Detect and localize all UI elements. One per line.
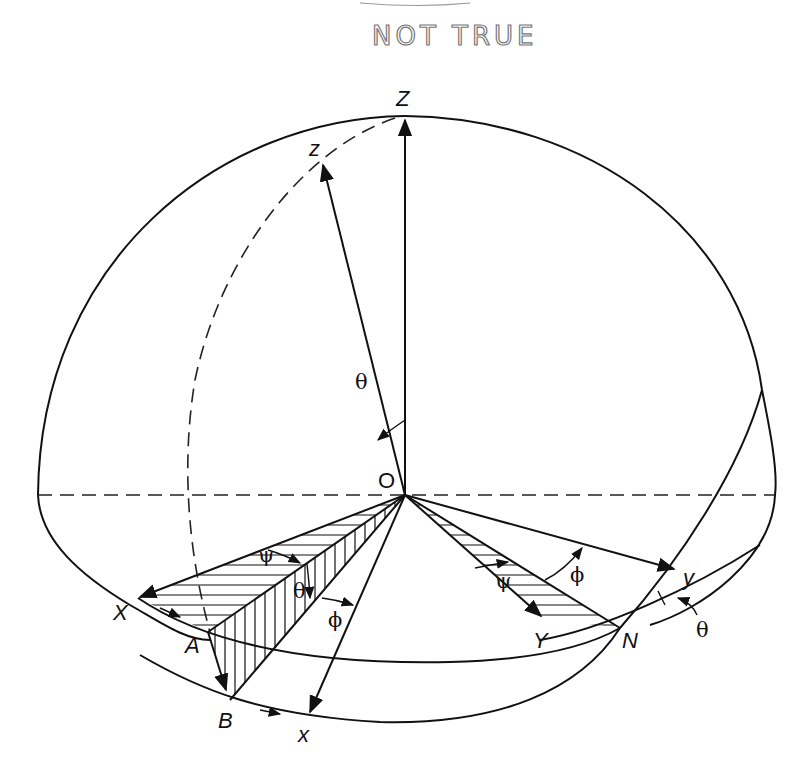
arrow-b-to-x	[260, 710, 280, 714]
label-N: N	[622, 628, 638, 653]
label-O: O	[378, 468, 395, 493]
label-Z: Z	[395, 86, 411, 111]
phi-left-arc	[322, 598, 353, 605]
line-o-n	[405, 495, 620, 628]
annotation-scribble	[360, 3, 470, 6]
theta-left-arc	[307, 564, 310, 598]
label-x: x	[297, 722, 310, 747]
label-theta-top: θ	[355, 370, 368, 394]
sphere-outline	[38, 116, 762, 495]
label-theta-left: θ	[293, 579, 306, 603]
label-B: B	[218, 708, 233, 733]
label-theta-right: θ	[696, 618, 709, 642]
label-z: z	[308, 136, 320, 161]
label-phi-left: ϕ	[328, 608, 342, 632]
label-psi-right: ψ	[495, 569, 511, 593]
annotation-text: NOT TRUE	[372, 21, 537, 51]
axis-z-arrow	[323, 165, 405, 495]
handwritten-annotation: NOT TRUE	[360, 3, 537, 51]
arrow-a-to-b	[208, 632, 226, 690]
label-y: y	[681, 565, 696, 590]
euler-angles-diagram: NOT TRUE	[0, 0, 808, 772]
tilted-great-circle	[140, 390, 762, 722]
label-Y: Y	[533, 628, 549, 653]
label-psi-left: ψ	[258, 543, 274, 567]
label-X: X	[112, 600, 129, 625]
sphere-outline-right	[650, 390, 776, 625]
label-A: A	[183, 633, 200, 658]
label-phi-right: ϕ	[570, 563, 584, 587]
